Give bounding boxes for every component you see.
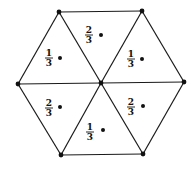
triangle-label-top: 2 3: [85, 25, 103, 45]
vertex-top-left: [57, 10, 62, 15]
fraction-numerator: 1: [87, 122, 93, 132]
point-marker: [58, 56, 62, 60]
vertex-right: [182, 80, 187, 85]
triangle-label-lower-left: 2 3: [45, 98, 62, 118]
triangle-label-bottom: 1 3: [86, 122, 105, 142]
triangle-label-lower-right: 2 3: [127, 97, 145, 117]
point-marker: [99, 33, 103, 37]
edge-lower-left: [18, 84, 61, 155]
fraction-denominator: 3: [46, 108, 52, 118]
edge-upper-right: [142, 11, 184, 82]
vertex-bottom-left: [59, 153, 64, 158]
fraction-numerator: 2: [46, 98, 52, 108]
hexagon-diagram: 2 3 1 3 2 3 1 3 2 3 1 3: [0, 0, 196, 169]
point-marker: [140, 57, 144, 61]
spoke-right: [101, 82, 184, 83]
vertex-top-right: [140, 9, 145, 14]
triangle-label-upper-right: 1 3: [127, 49, 144, 69]
spoke-left: [18, 83, 101, 84]
fraction-numerator: 2: [86, 25, 92, 35]
fraction-denominator: 3: [87, 132, 93, 142]
point-marker: [141, 104, 145, 108]
spoke-bottom-left: [61, 83, 101, 155]
fraction-denominator: 3: [86, 35, 92, 45]
fraction-numerator: 1: [46, 48, 52, 58]
fraction-numerator: 2: [128, 97, 134, 107]
point-marker: [58, 105, 62, 109]
edge-bottom: [61, 154, 143, 155]
edge-top: [59, 11, 142, 12]
edge-upper-left: [18, 12, 59, 84]
fraction-numerator: 1: [128, 49, 134, 59]
vertex-bottom-right: [141, 152, 146, 157]
triangle-label-upper-left: 1 3: [45, 48, 62, 68]
fraction-denominator: 3: [128, 107, 134, 117]
fraction-denominator: 3: [46, 58, 52, 68]
fraction-denominator: 3: [128, 59, 134, 69]
vertex-center: [99, 81, 104, 86]
vertex-left: [16, 82, 21, 87]
vertices: [16, 9, 187, 158]
spoke-top-right: [101, 11, 142, 83]
spoke-top-left: [59, 12, 101, 83]
edge-lower-right: [143, 82, 184, 154]
spoke-bottom-right: [101, 83, 143, 154]
point-marker: [101, 128, 105, 132]
